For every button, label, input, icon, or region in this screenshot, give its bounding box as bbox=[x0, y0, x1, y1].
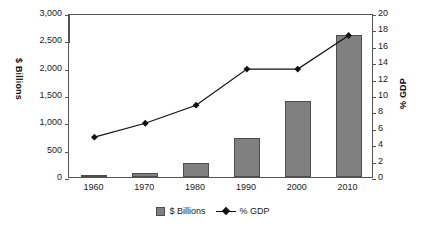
legend-bar-swatch-icon bbox=[156, 207, 165, 216]
y-axis-left-tick-label: 0 bbox=[26, 173, 62, 182]
y-axis-right-tick-mark bbox=[372, 163, 376, 164]
y-axis-right-tick-label: 10 bbox=[378, 91, 408, 100]
legend-label: $ Billions bbox=[169, 206, 205, 216]
y-axis-left-tick-label: 2,500 bbox=[26, 36, 62, 45]
y-axis-right-tick-mark bbox=[372, 179, 376, 180]
y-axis-right-tick-label: 16 bbox=[378, 42, 408, 51]
chart-container: $ Billions % GDP 05001,0001,5002,0002,50… bbox=[0, 0, 426, 233]
y-axis-left-title: $ Billions bbox=[13, 58, 25, 128]
y-axis-left-tick-label: 2,000 bbox=[26, 64, 62, 73]
y-axis-right-tick-label: 8 bbox=[378, 107, 408, 116]
x-axis-tick-label-1970: 1970 bbox=[124, 182, 164, 192]
y-axis-left-tick-label: 1,000 bbox=[26, 118, 62, 127]
gdp-line-path bbox=[94, 36, 348, 138]
y-axis-left-tick-mark bbox=[65, 15, 69, 16]
y-axis-left-tick-mark bbox=[65, 42, 69, 43]
x-axis-tick-label-1990: 1990 bbox=[226, 182, 266, 192]
y-axis-right-tick-mark bbox=[372, 146, 376, 147]
y-axis-left-tick-mark bbox=[65, 152, 69, 153]
y-axis-right-tick-label: 18 bbox=[378, 25, 408, 34]
y-axis-right-tick-label: 2 bbox=[378, 157, 408, 166]
y-axis-right-tick-mark bbox=[372, 64, 376, 65]
y-axis-right-tick-mark bbox=[372, 48, 376, 49]
x-axis-tick-label-1980: 1980 bbox=[175, 182, 215, 192]
gdp-marker-2010 bbox=[345, 32, 352, 39]
y-axis-left-tick-mark bbox=[65, 97, 69, 98]
y-axis-right-tick-label: 6 bbox=[378, 124, 408, 133]
x-axis-tick-label-2010: 2010 bbox=[328, 182, 368, 192]
plot-area bbox=[68, 14, 373, 178]
y-axis-left-title-text: $ Billions bbox=[14, 58, 24, 100]
plot-inner bbox=[69, 15, 372, 177]
y-axis-right-ticks: 02468101214161820 bbox=[378, 0, 408, 233]
y-axis-right-tick-mark bbox=[372, 81, 376, 82]
y-axis-right-tick-mark bbox=[372, 113, 376, 114]
y-axis-right-tick-mark bbox=[372, 130, 376, 131]
y-axis-left-tick-mark bbox=[65, 70, 69, 71]
y-axis-left-tick-label: 500 bbox=[26, 146, 62, 155]
y-axis-left-ticks: 05001,0001,5002,0002,5003,000 bbox=[26, 0, 62, 233]
y-axis-left-tick-mark bbox=[65, 179, 69, 180]
y-axis-right-tick-label: 4 bbox=[378, 140, 408, 149]
chart-legend: $ Billions% GDP bbox=[0, 206, 426, 216]
gdp-marker-1960 bbox=[91, 134, 98, 141]
y-axis-right-tick-mark bbox=[372, 31, 376, 32]
legend-line-diamond-icon bbox=[216, 207, 236, 216]
y-axis-left-tick-label: 1,500 bbox=[26, 91, 62, 100]
y-axis-right-tick-mark bbox=[372, 97, 376, 98]
legend-label: % GDP bbox=[240, 206, 270, 216]
y-axis-right-tick-mark bbox=[372, 15, 376, 16]
x-axis-tick-label-2000: 2000 bbox=[277, 182, 317, 192]
gdp-marker-2000 bbox=[294, 66, 301, 73]
y-axis-right-tick-label: 14 bbox=[378, 58, 408, 67]
y-axis-right-tick-label: 20 bbox=[378, 9, 408, 18]
y-axis-left-tick-mark bbox=[65, 124, 69, 125]
y-axis-right-tick-label: 0 bbox=[378, 173, 408, 182]
y-axis-left-tick-label: 3,000 bbox=[26, 9, 62, 18]
x-axis-tick-label-1960: 1960 bbox=[73, 182, 113, 192]
legend-item-dollars: $ Billions bbox=[156, 206, 205, 216]
line-series-layer bbox=[69, 15, 374, 179]
legend-item-gdp: % GDP bbox=[216, 206, 270, 216]
gdp-marker-1970 bbox=[142, 120, 149, 127]
y-axis-right-tick-label: 12 bbox=[378, 75, 408, 84]
